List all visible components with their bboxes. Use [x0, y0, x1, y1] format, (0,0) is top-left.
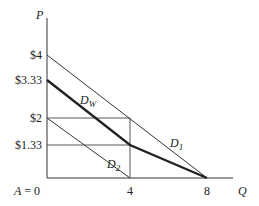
y-tick-3-33: $3.33 — [15, 73, 42, 87]
y-axis-label: P — [35, 8, 44, 22]
demand-curve-dw — [47, 80, 207, 178]
origin-label: A = 0 — [13, 184, 40, 198]
x-axis-label: Q — [238, 184, 247, 198]
x-tick-8: 8 — [204, 184, 210, 198]
label-dw: DW — [79, 93, 98, 109]
label-d1: D1 — [169, 136, 183, 152]
demand-diagram: P Q A = 0 $4 $3.33 $2 $1.33 4 8 DW D1 D2 — [0, 0, 259, 206]
demand-curve-d1 — [47, 55, 207, 178]
y-tick-4: $4 — [30, 48, 42, 62]
y-tick-2: $2 — [30, 111, 42, 125]
x-tick-4: 4 — [127, 184, 133, 198]
label-d2: D2 — [106, 157, 121, 173]
y-tick-1-33: $1.33 — [15, 138, 42, 152]
